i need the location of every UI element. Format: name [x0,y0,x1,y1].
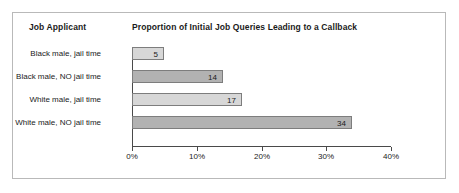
bar-row: Black male, jail time 5 [13,47,445,60]
x-axis-tick-label: 10% [189,152,205,161]
bar-row: Black male, NO jail time 14 [13,70,445,83]
x-axis-tick [326,147,327,151]
bar-white-male-no-jail-time: 34 [132,116,352,129]
bar-category-label: White male, NO jail time [15,117,101,128]
x-axis-tick [391,147,392,151]
x-axis-tick-label: 20% [254,152,270,161]
bar-category-label: White male, jail time [29,94,101,105]
plot-area: Black male, jail time 5 Black male, NO j… [13,45,445,180]
chart-frame: Job Applicant Proportion of Initial Job … [12,12,446,179]
bar-category-label: Black male, NO jail time [16,71,101,82]
x-axis-tick-label: 40% [383,152,399,161]
x-axis-tick [132,147,133,151]
bar-value-label: 34 [337,118,346,129]
bar-black-male-jail-time: 5 [132,47,164,60]
bar-row: White male, jail time 17 [13,93,445,106]
x-axis-tick [262,147,263,151]
bar-white-male-jail-time: 17 [132,93,242,106]
x-axis-tick-label: 0% [126,152,138,161]
chart-header: Job Applicant Proportion of Initial Job … [13,13,445,45]
bar-value-label: 5 [154,49,158,60]
bar-value-label: 14 [208,72,217,83]
bar-row: White male, NO jail time 34 [13,116,445,129]
category-column-header: Job Applicant [29,22,86,32]
x-axis-tick [197,147,198,151]
x-axis-tick-label: 30% [318,152,334,161]
bar-category-label: Black male, jail time [30,48,101,59]
bar-value-label: 17 [227,95,236,106]
chart-title: Proportion of Initial Job Queries Leadin… [132,22,357,32]
bar-black-male-no-jail-time: 14 [132,70,223,83]
